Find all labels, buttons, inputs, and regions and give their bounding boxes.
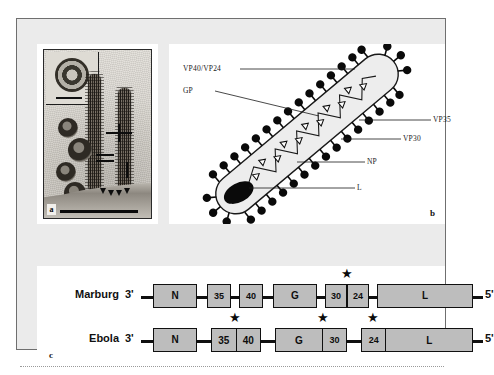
ebola-gene-35: 35 bbox=[212, 329, 236, 351]
micrograph-arrow-5 bbox=[126, 162, 128, 178]
micrograph-arrowhead-4 bbox=[124, 188, 130, 194]
virion-particle-2 bbox=[68, 138, 92, 162]
marburg-gene-24: 24 bbox=[347, 284, 369, 308]
micrograph-arrowhead-1 bbox=[100, 188, 106, 194]
ebola-star-3: ★ bbox=[367, 311, 379, 324]
ebola-5-prime: 5' bbox=[485, 332, 494, 344]
marburg-backbone-4 bbox=[317, 296, 325, 299]
marburg-gene-l: L bbox=[377, 284, 473, 308]
micrograph-arrow-3 bbox=[96, 154, 114, 156]
marburg-gene-35: 35 bbox=[207, 284, 231, 308]
micrograph-arrowhead-3 bbox=[116, 190, 122, 196]
ebola-gene-g: G bbox=[276, 329, 322, 351]
label-vp30: VP30 bbox=[403, 134, 421, 143]
species-name-marburg: Marburg bbox=[45, 288, 119, 300]
panel-c-mark: c bbox=[49, 350, 53, 360]
virion-envelope-group bbox=[188, 44, 425, 224]
ebola-backbone-3 bbox=[347, 340, 361, 343]
ebola-backbone-0 bbox=[141, 340, 153, 343]
marburg-3-prime: 3' bbox=[125, 288, 134, 300]
electron-micrograph-image: a bbox=[43, 49, 152, 219]
marburg-backbone-6 bbox=[473, 296, 483, 299]
ebola-backbone-2 bbox=[261, 340, 275, 343]
species-name-ebola: Ebola bbox=[45, 332, 119, 344]
ebola-star-1: ★ bbox=[229, 311, 241, 324]
figure-plate: a bbox=[16, 18, 446, 350]
ebola-gene-n: N bbox=[153, 328, 197, 352]
marburg-gene-n: N bbox=[153, 284, 197, 308]
micrograph-arrowhead-2 bbox=[108, 190, 114, 196]
micrograph-arrow-2 bbox=[118, 124, 120, 142]
genome-row-marburg: Marburg 3' N 35 40 G 30 24 L 5' ★ bbox=[37, 280, 445, 314]
filamentous-virion-1 bbox=[88, 74, 101, 192]
bottom-dotted-rule bbox=[20, 366, 444, 367]
virion-surface-spikes-1 bbox=[85, 71, 104, 195]
ebola-3-prime: 3' bbox=[125, 332, 134, 344]
marburg-backbone-3 bbox=[263, 296, 273, 299]
label-gp: GP bbox=[183, 86, 193, 95]
panel-b-mark: b bbox=[430, 208, 435, 218]
marburg-star-1: ★ bbox=[341, 267, 353, 280]
micrograph-arrow-4 bbox=[96, 160, 114, 162]
marburg-backbone-0 bbox=[141, 296, 153, 299]
ebola-gene-40: 40 bbox=[236, 329, 261, 351]
virion-surface-spikes-2 bbox=[115, 85, 134, 199]
label-vp40-vp24: VP40/VP24 bbox=[183, 64, 221, 73]
marburg-backbone-5 bbox=[369, 296, 377, 299]
marburg-gene-30: 30 bbox=[325, 284, 347, 308]
marburg-backbone-2 bbox=[231, 296, 239, 299]
virion-particle-1 bbox=[58, 118, 78, 138]
marburg-gene-40: 40 bbox=[239, 284, 263, 308]
ebola-gene-g-30-fused: G 30 bbox=[275, 328, 347, 352]
label-vp35: VP35 bbox=[433, 115, 451, 124]
marburg-backbone-1 bbox=[197, 296, 207, 299]
virion-cross-section-ring bbox=[55, 58, 89, 92]
micrograph-scale-bar bbox=[60, 210, 138, 213]
virion-particle-3 bbox=[56, 162, 76, 182]
genome-row-ebola: Ebola 3' N 35 40 G 30 24 L bbox=[37, 324, 445, 358]
marburg-gene-g: G bbox=[273, 284, 317, 308]
panel-b-virion-schematic: VP40/VP24 GP VP35 VP30 NP L b bbox=[169, 44, 445, 224]
filamentous-virion-2 bbox=[118, 88, 131, 196]
marburg-5-prime: 5' bbox=[485, 288, 494, 300]
label-l: L bbox=[357, 183, 362, 192]
ebola-star-2: ★ bbox=[317, 311, 329, 324]
ebola-gene-30: 30 bbox=[322, 329, 346, 351]
panel-c-genome-maps: Marburg 3' N 35 40 G 30 24 L 5' ★ bbox=[37, 266, 445, 362]
ebola-gene-24-l-fused: 24 L bbox=[361, 328, 473, 352]
ebola-gene-24: 24 bbox=[362, 329, 385, 351]
inset-scale-bar bbox=[56, 97, 82, 99]
label-np: NP bbox=[367, 157, 377, 166]
ebola-gene-35-40-fused: 35 40 bbox=[211, 328, 261, 352]
panel-a-mark: a bbox=[47, 204, 56, 215]
ebola-backbone-4 bbox=[473, 340, 483, 343]
ebola-backbone-1 bbox=[197, 340, 211, 343]
panel-a-micrograph: a bbox=[37, 44, 158, 224]
ebola-gene-l: L bbox=[385, 329, 472, 351]
